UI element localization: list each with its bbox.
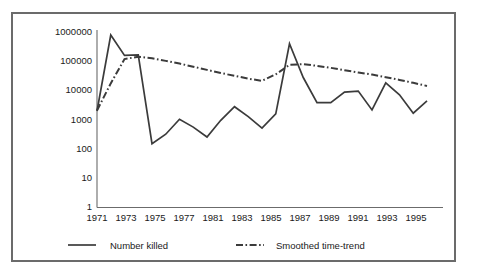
y-axis-tick-labels: 1000000 100000 10000 1000 100 10 1 [55, 26, 92, 212]
x-tick-label: 1977 [173, 212, 194, 223]
x-tick-label: 1975 [144, 212, 165, 223]
x-axis-tick-labels: 1971 1973 1975 1977 1981 1983 1985 1987 … [86, 212, 426, 223]
series-line-number-killed [97, 35, 427, 144]
x-tick-label: 1985 [260, 212, 281, 223]
y-tick-label: 100000 [60, 55, 92, 66]
y-tick-label: 10 [81, 172, 92, 183]
x-tick-label: 1995 [405, 212, 426, 223]
chart-legend: Number killed Smoothed time-trend [68, 240, 365, 251]
figure-root: 1000000 100000 10000 1000 100 10 1 1971 … [0, 0, 479, 274]
y-tick-label: 1000000 [55, 26, 92, 37]
x-tick-label: 1991 [347, 212, 368, 223]
x-tick-label: 1993 [376, 212, 397, 223]
x-tick-label: 1981 [202, 212, 223, 223]
y-tick-label: 100 [76, 143, 92, 154]
series-line-smoothed-time-trend [97, 57, 427, 111]
x-tick-label: 1971 [86, 212, 107, 223]
x-tick-label: 1973 [115, 212, 136, 223]
x-tick-label: 1983 [231, 212, 252, 223]
y-tick-label: 1 [87, 201, 92, 212]
legend-label-number-killed: Number killed [110, 240, 168, 251]
y-tick-label: 10000 [66, 84, 92, 95]
x-tick-label: 1987 [289, 212, 310, 223]
line-chart: 1000000 100000 10000 1000 100 10 1 1971 … [0, 0, 479, 274]
y-tick-label: 1000 [71, 114, 92, 125]
legend-label-smoothed-time-trend: Smoothed time-trend [276, 240, 365, 251]
x-tick-label: 1989 [318, 212, 339, 223]
